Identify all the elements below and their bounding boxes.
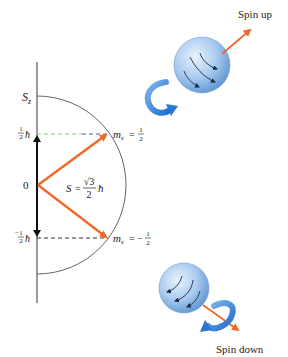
svg-text:√3: √3 [84, 176, 95, 187]
electron-sphere [159, 263, 209, 313]
svg-text:ms: ms [113, 232, 124, 246]
svg-text:=: = [75, 183, 81, 194]
svg-text:ħ: ħ [25, 233, 30, 244]
svg-text:1: 1 [19, 229, 23, 237]
svg-text:ħ: ħ [98, 182, 104, 194]
spin-up-label: Spin up [238, 8, 272, 20]
spin-angular-momentum-diagram: Sz 1 2 ħ 0 − 1 2 ħ S = √3 2 ħ ms = 1 2 m… [0, 0, 288, 357]
svg-text:2: 2 [19, 237, 23, 245]
svg-text:ħ: ħ [25, 129, 30, 140]
svg-text:1: 1 [146, 230, 150, 238]
rotation-arrow-icon [148, 82, 170, 113]
magnitude-arc [37, 96, 126, 274]
spin-vector-up [38, 135, 106, 185]
up-level-label: 1 2 ħ [18, 125, 30, 141]
down-level-label: − 1 2 ħ [15, 229, 30, 245]
svg-text:ms: ms [113, 128, 124, 142]
spin-up-arrow [222, 30, 250, 54]
origin-label: 0 [23, 179, 29, 191]
svg-text:2: 2 [19, 133, 23, 141]
svg-text:2: 2 [146, 239, 150, 247]
spin-vector-down [38, 185, 106, 237]
svg-text:S: S [66, 182, 72, 194]
spin-up-electron [148, 30, 250, 116]
svg-text:2: 2 [87, 189, 92, 200]
svg-text:= −: = − [129, 233, 143, 244]
ms-up-label: ms = 1 2 [113, 126, 144, 143]
ms-down-label: ms = − 1 2 [113, 230, 151, 247]
svg-text:1: 1 [19, 125, 23, 133]
electron-sphere [174, 37, 230, 93]
svg-text:2: 2 [139, 135, 143, 143]
spin-down-electron [159, 263, 238, 332]
spin-down-label: Spin down [216, 343, 264, 355]
axis-label: Sz [22, 90, 32, 106]
rotation-arrow-icon [208, 303, 233, 328]
svg-text:1: 1 [139, 126, 143, 134]
magnitude-label: S = √3 2 ħ [66, 176, 104, 200]
svg-text:=: = [129, 129, 135, 140]
